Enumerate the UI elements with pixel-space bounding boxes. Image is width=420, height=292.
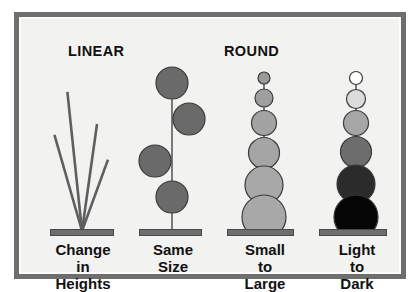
small-to-large-bead-column-art: [225, 65, 313, 235]
small-to-large-svg: [225, 65, 313, 235]
base-bar-change-in-heights: [50, 229, 114, 236]
figure-root: LINEAR ROUND ChangeinHeights SameSize Sm…: [0, 0, 420, 292]
caption-line: Light: [311, 241, 403, 258]
bead-circle-4: [249, 138, 280, 169]
linear-stem-3: [82, 124, 97, 231]
caption-line: Size: [127, 258, 219, 275]
caption-line: Change: [37, 241, 129, 258]
caption-small-to-large: SmalltoLarge: [219, 241, 311, 292]
section-title-round: ROUND: [224, 43, 279, 59]
caption-line: Dark: [311, 275, 403, 292]
bead-circle-3: [139, 145, 171, 177]
caption-line: Same: [127, 241, 219, 258]
caption-light-to-dark: LighttoDark: [311, 241, 403, 292]
bead-circle-2: [347, 90, 366, 109]
bead-circle-3: [252, 111, 277, 136]
figure-frame: LINEAR ROUND ChangeinHeights SameSize Sm…: [14, 12, 406, 279]
caption-same-size: SameSize: [127, 241, 219, 275]
bead-circle-2: [255, 89, 273, 107]
same-size-bead-column-art: [133, 65, 221, 235]
caption-line: Small: [219, 241, 311, 258]
caption-line: Large: [219, 275, 311, 292]
same-size-svg: [133, 65, 221, 235]
bead-circle-1: [156, 67, 188, 99]
caption-line: in: [37, 258, 129, 275]
base-bar-small-to-large: [227, 229, 294, 236]
column-change-in-heights: ChangeinHeights: [43, 65, 131, 291]
caption-line: to: [311, 258, 403, 275]
bead-circle-3: [344, 111, 369, 136]
bead-circle-1: [350, 72, 363, 85]
section-title-linear: LINEAR: [68, 43, 124, 59]
base-bar-light-to-dark: [319, 229, 387, 236]
bead-circle-2: [173, 103, 205, 135]
bead-circle-1: [258, 72, 270, 84]
light-to-dark-svg: [317, 65, 405, 235]
change-in-heights-svg: [43, 65, 131, 235]
bead-circle-4: [156, 181, 188, 213]
bead-circle-4: [341, 137, 372, 168]
figure-frame-inner: LINEAR ROUND ChangeinHeights SameSize Sm…: [19, 17, 401, 274]
light-to-dark-bead-column-art: [317, 65, 405, 235]
caption-line: Heights: [37, 275, 129, 292]
caption-line: to: [219, 258, 311, 275]
column-small-to-large: SmalltoLarge: [225, 65, 313, 291]
linear-fan-art: [43, 65, 131, 235]
column-same-size: SameSize: [133, 65, 221, 291]
base-bar-same-size: [139, 229, 202, 236]
column-light-to-dark: LighttoDark: [317, 65, 405, 291]
caption-change-in-heights: ChangeinHeights: [37, 241, 129, 292]
